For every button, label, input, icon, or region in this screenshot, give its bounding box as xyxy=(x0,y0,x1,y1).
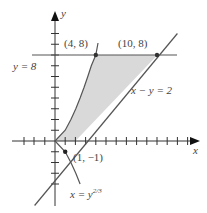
y-axis-arrow-icon xyxy=(51,11,59,21)
label-y-equals-8: y = 8 xyxy=(12,60,37,72)
label-x-minus-y-equals-2: x − y = 2 xyxy=(130,84,173,96)
shaded-region xyxy=(55,55,157,141)
point-4-8 xyxy=(94,53,98,57)
point-10-8 xyxy=(155,53,159,57)
point-label-1-neg1: (1, −1) xyxy=(73,151,103,164)
point-1-neg1 xyxy=(63,150,67,154)
region-diagram: y x (4, 8) (10, 8) (1, −1) y = 8 x − y =… xyxy=(0,0,207,213)
label-x-equals-y-two-thirds: x = y2/3 xyxy=(69,187,102,200)
x-axis-label: x xyxy=(192,144,198,156)
point-label-4-8: (4, 8) xyxy=(64,37,88,50)
point-label-10-8: (10, 8) xyxy=(118,37,148,50)
y-axis-label: y xyxy=(60,7,66,19)
